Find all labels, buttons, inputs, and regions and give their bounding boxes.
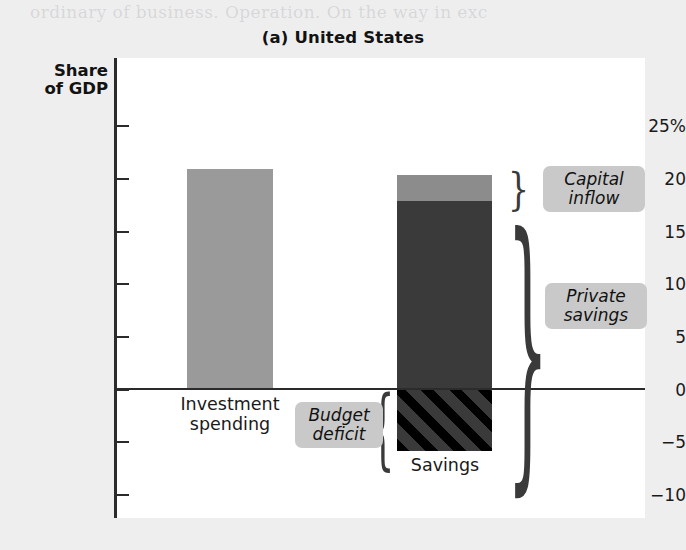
tick-label-5: 5 (582, 327, 686, 347)
bar-segment-private-savings (397, 201, 492, 388)
category-label-line2: spending (150, 414, 310, 434)
annotation-line1: Private (553, 287, 639, 306)
tick-label-25: 25% (582, 116, 686, 136)
category-label-investment-spending: Investment spending (150, 394, 310, 434)
annotation-line2: savings (553, 306, 639, 325)
tick-label-15: 15 (582, 222, 686, 242)
annotation-line1: Budget (303, 406, 375, 425)
chart-title: (a) United States (0, 28, 686, 47)
tick-mark-20 (117, 178, 129, 180)
annotation-budget-deficit: Budget deficit (295, 402, 383, 448)
tick-label-minus10: −10 (582, 485, 686, 505)
annotation-line2: inflow (551, 189, 637, 208)
category-label-line1: Investment (150, 394, 310, 414)
bar-segment-budget-deficit (397, 390, 492, 451)
annotation-line1: Capital (551, 170, 637, 189)
y-axis-title: Share of GDP (8, 62, 108, 99)
tick-mark-minus5 (117, 441, 129, 443)
tick-mark-minus10 (117, 494, 129, 496)
y-axis-line (114, 58, 117, 518)
tick-mark-0 (117, 389, 129, 391)
annotation-capital-inflow: Capital inflow (543, 166, 645, 212)
bar-investment-spending (187, 169, 273, 388)
tick-mark-10 (117, 283, 129, 285)
tick-label-minus5: −5 (582, 432, 686, 452)
bar-segment-capital-inflow (397, 175, 492, 201)
tick-label-0: 0 (582, 380, 686, 400)
brace-private-savings-icon: } (507, 200, 548, 496)
figure-us-savings-investment: (a) United States Share of GDP 25% 20 15… (0, 0, 686, 550)
tick-mark-15 (117, 231, 129, 233)
annotation-private-savings: Private savings (545, 283, 647, 329)
tick-mark-5 (117, 336, 129, 338)
y-axis-title-line1: Share (8, 62, 108, 80)
annotation-line2: deficit (303, 425, 375, 444)
y-axis-title-line2: of GDP (8, 80, 108, 98)
tick-mark-25 (117, 125, 129, 127)
